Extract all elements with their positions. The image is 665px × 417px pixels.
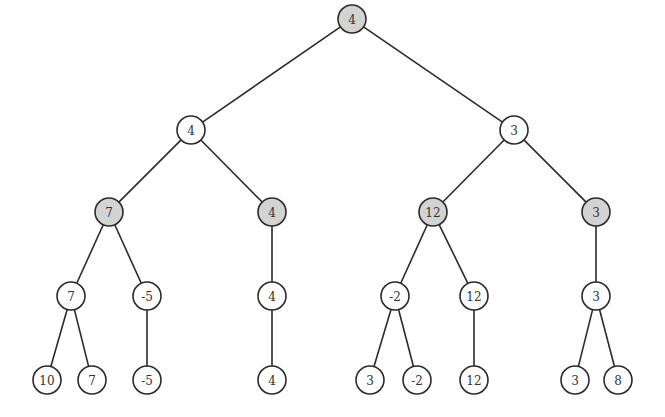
node-value: 3 — [571, 374, 579, 388]
tree-node-shaded: 7 — [95, 198, 123, 226]
tree-edge — [77, 225, 103, 283]
node-value: 12 — [466, 290, 481, 304]
tree-edge — [443, 140, 504, 202]
node-value: 3 — [592, 290, 600, 304]
node-value: -5 — [141, 374, 153, 388]
node-value: 4 — [187, 124, 195, 138]
tree-nodes: 443741237-54-2123107-543-21238 — [33, 5, 632, 394]
tree-node: 10 — [33, 366, 61, 394]
node-value: 4 — [268, 290, 276, 304]
node-value: 3 — [366, 374, 374, 388]
tree-edge — [203, 27, 341, 122]
node-value: 12 — [466, 374, 481, 388]
tree-edge — [578, 310, 592, 367]
node-value: -2 — [389, 290, 401, 304]
node-value: -5 — [141, 290, 153, 304]
tree-edge — [439, 225, 468, 284]
node-value: 10 — [39, 374, 54, 388]
tree-node: 3 — [356, 366, 384, 394]
tree-node: -2 — [403, 366, 431, 394]
node-value: 7 — [88, 374, 96, 388]
tree-node: -5 — [133, 282, 161, 310]
tree-edge — [74, 310, 88, 367]
node-value: 12 — [425, 206, 440, 220]
tree-node-shaded: 12 — [419, 198, 447, 226]
node-value: 7 — [67, 290, 75, 304]
node-value: 3 — [592, 206, 600, 220]
tree-node: 7 — [78, 366, 106, 394]
tree-edge — [364, 27, 503, 122]
tree-edge — [374, 309, 391, 366]
tree-node-shaded: 4 — [258, 198, 286, 226]
tree-node: 12 — [460, 282, 488, 310]
tree-node-shaded: 3 — [582, 198, 610, 226]
node-value: 3 — [510, 124, 518, 138]
tree-node: 12 — [460, 366, 488, 394]
tree-edge — [201, 140, 262, 202]
tree-node: 8 — [604, 366, 632, 394]
tree-edge — [401, 225, 427, 283]
tree-node: 4 — [258, 366, 286, 394]
node-value: 4 — [268, 206, 276, 220]
tree-node: 4 — [258, 282, 286, 310]
tree-edge — [51, 309, 67, 366]
tree-node: 3 — [500, 116, 528, 144]
tree-edge — [119, 140, 181, 202]
tree-edge — [115, 225, 141, 283]
tree-node: 3 — [561, 366, 589, 394]
node-value: 7 — [105, 206, 113, 220]
tree-node: -5 — [133, 366, 161, 394]
tree-edge — [600, 310, 615, 367]
node-value: 4 — [348, 13, 356, 27]
tree-edge — [399, 310, 414, 367]
minimax-tree-diagram: 443741237-54-2123107-543-21238 — [0, 0, 665, 417]
tree-node: 4 — [177, 116, 205, 144]
node-value: 8 — [614, 374, 622, 388]
node-value: 4 — [268, 374, 276, 388]
node-value: -2 — [411, 374, 423, 388]
tree-edges — [51, 27, 615, 367]
tree-edge — [524, 140, 586, 202]
tree-node-shaded: 4 — [338, 5, 366, 33]
tree-node: -2 — [381, 282, 409, 310]
tree-node: 7 — [57, 282, 85, 310]
tree-node: 3 — [582, 282, 610, 310]
